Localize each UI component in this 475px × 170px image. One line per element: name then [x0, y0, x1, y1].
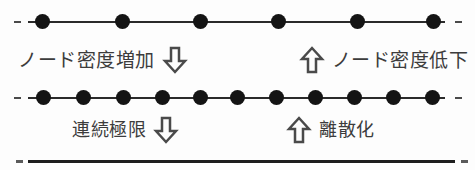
annotation-discretization: 離散化	[286, 112, 375, 148]
axis-stub-left	[14, 97, 21, 99]
annotation-continuum-limit: 連続極限	[72, 112, 179, 148]
lattice-node	[269, 90, 284, 105]
axis-stub-left	[14, 21, 21, 23]
continuum-line-row	[0, 155, 475, 167]
lattice-node	[347, 90, 362, 105]
annotation-label: 連続極限	[72, 121, 146, 139]
axis-stub-right	[455, 97, 462, 99]
annotation-density-decrease: ノード密度低下	[299, 42, 469, 78]
lattice-continuum-diagram: ノード密度増加 ノード密度低下 連続極限	[0, 0, 475, 170]
lattice-node	[386, 90, 401, 105]
lattice-node	[230, 90, 245, 105]
lattice-node	[426, 14, 441, 29]
lattice-node	[308, 90, 323, 105]
arrow-up-icon	[286, 116, 312, 144]
axis-stub-right	[455, 21, 462, 23]
arrow-down-icon	[153, 116, 179, 144]
lattice-node	[193, 14, 208, 29]
lattice-node	[155, 90, 170, 105]
arrow-down-icon	[162, 46, 188, 74]
coarse-lattice-row	[0, 10, 475, 34]
lattice-node	[35, 14, 50, 29]
arrow-up-icon	[299, 46, 325, 74]
lattice-node	[76, 90, 91, 105]
lattice-node	[115, 14, 130, 29]
annotation-density-increase: ノード密度増加	[18, 42, 188, 78]
lattice-axis-line	[28, 21, 445, 23]
lattice-node	[36, 90, 51, 105]
annotation-label: ノード密度低下	[332, 51, 469, 70]
lattice-node	[116, 90, 131, 105]
axis-stub-left	[16, 160, 23, 163]
annotation-label: 離散化	[319, 121, 375, 139]
lattice-node	[350, 14, 365, 29]
axis-stub-right	[461, 160, 468, 163]
lattice-node	[193, 90, 208, 105]
lattice-node	[271, 14, 286, 29]
continuum-axis-line	[28, 160, 455, 163]
lattice-node	[425, 90, 440, 105]
annotation-label: ノード密度増加	[18, 51, 155, 70]
fine-lattice-row	[0, 86, 475, 110]
